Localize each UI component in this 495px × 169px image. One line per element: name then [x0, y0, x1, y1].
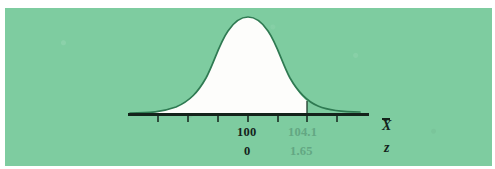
x-bar-symbol: X — [382, 118, 391, 133]
figure-root: 100 0 104.1 1.65 X z — [0, 0, 495, 169]
cutoff-x-label: 104.1 — [288, 126, 317, 139]
mean-x-label: 100 — [237, 126, 256, 139]
x-bar-axis-name: X — [382, 118, 391, 133]
normal-curve-fill — [130, 17, 307, 113]
mean-z-label: 0 — [244, 145, 250, 158]
z-axis-name: z — [384, 141, 389, 155]
cutoff-z-label: 1.65 — [290, 145, 313, 158]
axis-tick-marks — [158, 116, 337, 122]
